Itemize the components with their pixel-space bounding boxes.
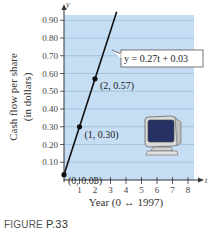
x-tick-label: 4 — [124, 185, 129, 195]
y-tick-label: 0.40 — [42, 104, 58, 114]
data-point — [61, 172, 66, 177]
x-tick-label: 8 — [186, 185, 191, 195]
y-axis-subtitle: (in dollars) — [21, 72, 34, 121]
x-axis-title: Year (0 ↔ 1997) — [89, 196, 164, 209]
y-tick-label: 0.90 — [42, 15, 58, 25]
caption-number: P.33 — [46, 218, 68, 230]
x-tick-label: 2 — [93, 185, 98, 195]
x-axis-letter: t — [205, 176, 208, 185]
data-point-label: (2, 0.57) — [100, 80, 134, 92]
caption-prefix: FIGURE — [4, 219, 43, 230]
data-point-label: (0, 0.03) — [68, 175, 102, 187]
x-tick-label: 3 — [108, 185, 113, 195]
x-tick-label: 1 — [77, 185, 82, 195]
data-point — [92, 76, 97, 81]
x-axis-arrow-icon — [198, 178, 204, 183]
y-tick-label: 0.60 — [42, 69, 58, 79]
y-tick-label: 0.50 — [42, 86, 58, 96]
y-tick-label: 0.80 — [42, 33, 58, 43]
y-tick-label: 0.10 — [42, 157, 58, 167]
y-tick-label: 0.30 — [42, 122, 58, 132]
x-tick-label: 6 — [155, 185, 160, 195]
equation-callout: y = 0.27t + 0.03 — [112, 50, 203, 67]
y-axis-ticks: 0.100.200.300.400.500.600.700.800.90 — [42, 15, 64, 167]
x-tick-label: 7 — [170, 185, 175, 195]
data-point — [77, 124, 82, 129]
y-axis-title: Cash flow per share — [7, 53, 19, 141]
svg-text:y = 0.27t + 0.03: y = 0.27t + 0.03 — [124, 53, 188, 64]
y-tick-label: 0.70 — [42, 51, 58, 61]
y-axis-letter: y — [65, 0, 70, 9]
data-point-label: (1, 0.30) — [85, 129, 119, 141]
cash-flow-chart: 0.100.200.300.400.500.600.700.800.90 123… — [0, 0, 212, 236]
y-tick-label: 0.20 — [42, 140, 58, 150]
figure-caption: FIGURE P.33 — [4, 218, 68, 230]
x-tick-label: 5 — [139, 185, 144, 195]
